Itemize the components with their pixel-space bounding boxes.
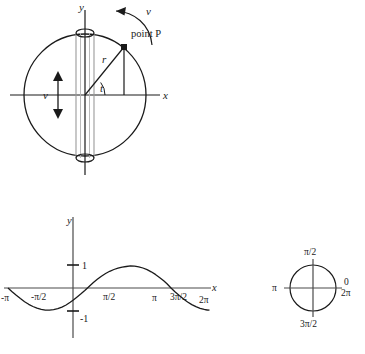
radius-label: r	[102, 53, 107, 65]
sine-xtick-label-pi-half: π/2	[103, 292, 115, 302]
sine-axis-x-label: x	[211, 282, 217, 293]
vertical-velocity-arrowhead-up	[53, 71, 63, 81]
unit-circle-label-left: π	[272, 283, 277, 293]
unit-circle-label-top: π/2	[304, 247, 316, 257]
unit-circle-label-right-2pi: 2π	[341, 288, 351, 298]
sine-ytick-label-neg1: -1	[80, 313, 88, 324]
point-p-marker	[121, 44, 127, 50]
sine-xtick-label-3pi-half: 3π/2	[170, 292, 187, 302]
top-diagram-group: y x point P r t v v	[10, 1, 168, 175]
rotation-arrow-head	[116, 7, 126, 16]
top-axis-x-label: x	[162, 89, 168, 101]
sine-xtick-label-neg-pi: -π	[1, 293, 9, 303]
point-p-label: point P	[131, 28, 161, 39]
sine-xtick-label-pi: π	[152, 293, 157, 303]
unit-circle-label-right-zero: 0	[344, 277, 349, 287]
sine-plot-group: y x 1 -1 -π -π/2 π/2 π 3π/2 2π	[1, 215, 217, 338]
vertical-velocity-label: v	[43, 89, 48, 101]
figure-canvas: y x point P r t v v y x 1 -1 -π	[0, 0, 365, 354]
unit-circle-label-bottom: 3π/2	[300, 319, 317, 329]
sine-axis-y-label: y	[66, 215, 72, 226]
sine-ytick-label-1: 1	[82, 260, 87, 271]
sine-xtick-label-neg-pi-half: -π/2	[31, 292, 47, 302]
unit-circle-group: π/2 π 0 2π 3π/2	[272, 247, 351, 329]
diagram-svg: y x point P r t v v y x 1 -1 -π	[0, 0, 365, 354]
top-axis-y-label: y	[78, 1, 84, 13]
vertical-velocity-arrowhead-down	[53, 109, 63, 119]
rotation-velocity-label: v	[146, 5, 151, 17]
sine-xtick-label-2pi: 2π	[199, 295, 209, 305]
